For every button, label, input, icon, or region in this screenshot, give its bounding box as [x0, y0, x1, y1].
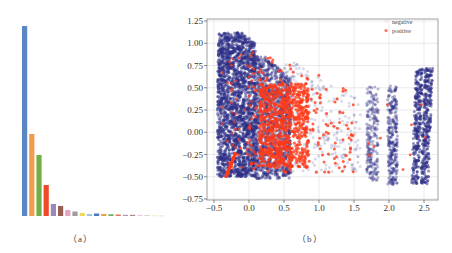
y-tick-label: 0.00: [187, 127, 203, 137]
bar: [80, 213, 85, 216]
bar: [144, 215, 149, 216]
y-tick-label: −0.25: [182, 150, 203, 160]
bar: [87, 214, 92, 216]
x-tick-label: 1.0: [313, 203, 325, 213]
legend-negative-marker: [385, 20, 388, 23]
x-tick-label: −0.5: [206, 203, 223, 213]
bar-chart: [0, 0, 170, 253]
x-tick-label: 1.5: [348, 203, 360, 213]
bar: [36, 155, 41, 216]
caption-a: （a）: [68, 232, 93, 245]
scatter-chart-panel: −0.50.00.51.01.52.02.51.251.000.750.500.…: [165, 0, 452, 253]
y-tick-label: 0.50: [187, 83, 203, 93]
y-tick-label: −0.75: [182, 194, 203, 204]
y-tick-label: 0.75: [187, 61, 203, 71]
bar: [152, 215, 157, 216]
legend-positive-label: positive: [392, 28, 411, 34]
x-tick-label: 0.0: [243, 203, 255, 213]
bar: [159, 216, 164, 217]
bar: [101, 214, 106, 216]
bar: [58, 206, 63, 216]
bar-chart-panel: （a）: [0, 0, 170, 253]
y-tick-label: −0.50: [182, 172, 203, 182]
x-tick-label: 2.5: [418, 203, 430, 213]
caption-b: （b）: [297, 232, 323, 245]
y-tick-label: 0.25: [187, 105, 203, 115]
bar: [44, 185, 49, 216]
scatter-chart: −0.50.00.51.01.52.02.51.251.000.750.500.…: [165, 0, 452, 253]
bar: [123, 215, 128, 216]
bar: [137, 215, 142, 216]
y-tick-label: 1.00: [187, 38, 203, 48]
bar: [72, 212, 77, 217]
bar: [116, 215, 121, 217]
bar: [94, 214, 99, 217]
bar: [29, 134, 34, 216]
legend-negative-label: negative: [392, 19, 413, 25]
bar: [65, 210, 70, 216]
bar: [130, 215, 135, 216]
x-tick-label: 2.0: [383, 203, 395, 213]
y-tick-label: 1.25: [187, 16, 203, 26]
bar: [108, 214, 113, 216]
x-tick-label: 0.5: [278, 203, 290, 213]
bar: [22, 26, 27, 216]
legend-positive-marker: [384, 29, 387, 32]
bar: [51, 204, 56, 216]
